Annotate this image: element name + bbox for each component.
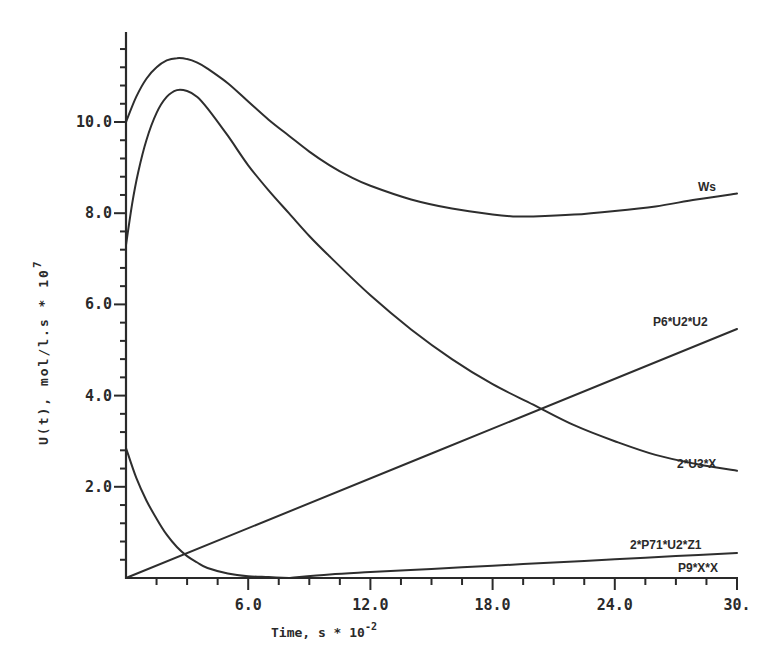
series-line-p9-x-x: [126, 448, 289, 578]
x-axis-title: Time, s * 10-2: [271, 621, 377, 640]
series-line-2-p71-u2-z1: [289, 553, 737, 578]
series-label: P9*X*X: [678, 561, 718, 575]
x-tick-label: 12.0: [352, 596, 388, 614]
x-tick-label: 18.0: [475, 596, 511, 614]
series-label: Ws: [698, 180, 716, 194]
y-tick-label: 10.0: [76, 113, 112, 131]
axis-ticks: [114, 49, 737, 590]
line-chart: 6.012.018.024.030.2.04.06.08.010.0 WsP6*…: [0, 0, 764, 668]
axes: [125, 32, 738, 579]
y-tick-label: 2.0: [85, 478, 112, 496]
series-line-2-u3-x: [126, 90, 737, 471]
series-label: P6*U2*U2: [653, 315, 708, 329]
series-line-ws: [126, 58, 737, 217]
x-tick-label: 30.: [723, 596, 750, 614]
plot-curves: [126, 58, 737, 578]
series-label: 2*U3*X: [677, 457, 716, 471]
x-tick-label: 6.0: [235, 596, 262, 614]
series-label: 2*P71*U2*Z1: [630, 538, 702, 552]
y-tick-label: 8.0: [85, 204, 112, 222]
x-tick-label: 24.0: [597, 596, 633, 614]
y-tick-label: 4.0: [85, 387, 112, 405]
y-tick-label: 6.0: [85, 295, 112, 313]
series-labels: WsP6*U2*U22*U3*X2*P71*U2*Z1P9*X*X: [630, 180, 718, 575]
y-axis-title: U(t), mol/l.s * 107: [31, 259, 51, 445]
